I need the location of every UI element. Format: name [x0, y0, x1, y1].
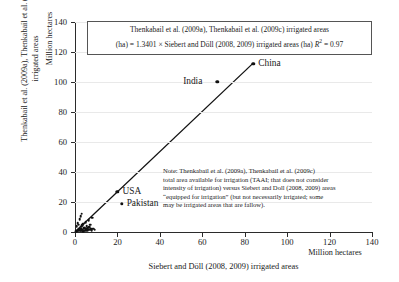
note-line-3: intensity of irrigation) versus Siebert …: [163, 184, 385, 193]
x-tick-label-60: 60: [182, 238, 222, 247]
x-axis-unit-label: Million hectares: [280, 248, 390, 257]
y-tick-120: [71, 52, 75, 53]
y-tick-60: [71, 142, 75, 143]
x-tick-label-20: 20: [97, 238, 137, 247]
x-axis-title: Siebert and Döll (2008, 2009) irrigated …: [75, 262, 372, 271]
equation-line-1: Thenkabail et al. (2009a), Thenkabail et…: [92, 25, 367, 36]
scatter-chart-figure: Thenkabail et al. (2009a), Thenkabail et…: [0, 0, 399, 282]
data-point: [84, 221, 87, 224]
x-tick-label-40: 40: [140, 238, 180, 247]
data-point: [78, 218, 81, 221]
point-label-india: India: [183, 77, 202, 86]
gridline-y-80: [75, 112, 372, 113]
x-tick-label-0: 0: [55, 238, 95, 247]
data-point: [80, 212, 83, 215]
point-label-usa: USA: [122, 187, 141, 196]
y-tick-label-100: 100: [25, 78, 67, 87]
gridline-y-60: [75, 142, 372, 143]
note-line-2: total area available for irrigation (TAA…: [163, 176, 385, 185]
y-tick-label-40: 40: [25, 168, 67, 177]
data-point: [87, 219, 90, 222]
x-tick-label-100: 100: [267, 238, 307, 247]
y-tick-100: [71, 82, 75, 83]
y-tick-80: [71, 112, 75, 113]
y-tick-40: [71, 172, 75, 173]
y-tick-label-60: 60: [25, 138, 67, 147]
y-tick-20: [71, 202, 75, 203]
note-annotation: Note: Thenkabail et al. (2009a), Thenkab…: [163, 167, 385, 210]
data-point: [79, 215, 82, 218]
x-tick-label-140: 140: [352, 238, 392, 247]
data-point: [78, 224, 81, 227]
data-point: [91, 217, 94, 220]
regression-equation-box: Thenkabail et al. (2009a), Thenkabail et…: [87, 21, 372, 55]
equation-line-2-text: (ha) = 1.3401 × Siebert and Döll (2008, …: [116, 39, 315, 48]
gridline-y-100: [75, 82, 372, 83]
y-tick-label-120: 120: [25, 48, 67, 57]
data-point: [93, 229, 96, 232]
y-tick-label-140: 140: [25, 18, 67, 27]
equation-line-2: (ha) = 1.3401 × Siebert and Döll (2008, …: [92, 36, 367, 50]
x-tick-label-120: 120: [310, 238, 350, 247]
r-squared-value: = 0.97: [322, 39, 343, 48]
note-line-4: “equipped for irrigation” (but not neces…: [163, 193, 385, 202]
point-label-china: China: [258, 59, 280, 68]
point-label-pakistan: Pakistan: [127, 199, 159, 208]
note-line-5: may be irrigated areas that are fallow).: [163, 201, 385, 210]
y-tick-label-20: 20: [25, 198, 67, 207]
y-tick-140: [71, 22, 75, 23]
data-point: [89, 223, 92, 226]
y-tick-label-0: 0: [25, 228, 67, 237]
y-tick-label-80: 80: [25, 108, 67, 117]
data-point: [82, 230, 85, 233]
x-axis-line: [75, 232, 373, 233]
note-line-1: Note: Thenkabail et al. (2009a), Thenkab…: [163, 167, 385, 176]
x-tick-label-80: 80: [225, 238, 265, 247]
